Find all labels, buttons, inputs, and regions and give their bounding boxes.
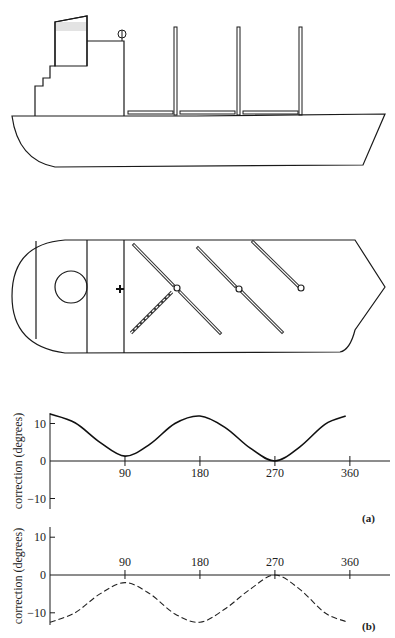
derrick-mast-1 [174, 27, 177, 115]
x-tick-label: 360 [341, 466, 359, 480]
y-tick-label: −10 [27, 606, 46, 620]
pivot-2-icon [236, 286, 242, 292]
chart-a-y-label: correction (degrees) [11, 413, 25, 509]
y-tick-label: 10 [34, 417, 46, 431]
ship-side-view [12, 16, 385, 167]
ship-plan-view [12, 240, 385, 353]
hull-side [12, 114, 385, 167]
x-tick-label: 270 [266, 555, 284, 569]
x-tick-label: 180 [191, 555, 209, 569]
deck-boom-3 [243, 111, 298, 114]
derrick-mast-2 [237, 27, 240, 115]
x-tick-label: 360 [341, 555, 359, 569]
figure-canvas: 90180270360 100−10 correction (degrees) … [0, 0, 395, 638]
funnel-circle [55, 271, 87, 303]
plan-boom-swung [131, 292, 172, 333]
hull-plan [12, 240, 385, 353]
chart-b-panel-label: (b) [362, 620, 376, 633]
pivot-1-icon [174, 285, 180, 291]
y-tick-label: 10 [34, 530, 46, 544]
chart-a: 90180270360 100−10 correction (degrees) … [11, 413, 390, 525]
x-tick-label: 180 [191, 466, 209, 480]
x-tick-label: 90 [119, 466, 131, 480]
chart-b-series-line [50, 575, 346, 622]
position-cross-icon [116, 285, 124, 293]
x-tick-label: 90 [119, 555, 131, 569]
deck-boom-2 [180, 111, 235, 114]
x-tick-label: 270 [266, 466, 284, 480]
plan-booms [134, 242, 298, 333]
derrick-masts [174, 27, 302, 115]
pivot-3-icon [298, 285, 304, 291]
chart-a-series-line [50, 414, 346, 461]
bridge-window-shade [56, 22, 86, 31]
y-tick-label: −10 [27, 492, 46, 506]
deck-booms [128, 111, 298, 114]
chart-b: 90180270360 100−10 correction (degrees) … [11, 527, 390, 633]
derrick-mast-3 [299, 27, 302, 115]
chart-a-panel-label: (a) [362, 512, 375, 525]
deck-boom-1 [128, 111, 173, 114]
y-tick-label: 0 [40, 568, 46, 582]
y-tick-label: 0 [40, 454, 46, 468]
chart-b-y-label: correction (degrees) [11, 528, 25, 624]
chart-a-x-ticks: 90180270360 [119, 456, 359, 480]
